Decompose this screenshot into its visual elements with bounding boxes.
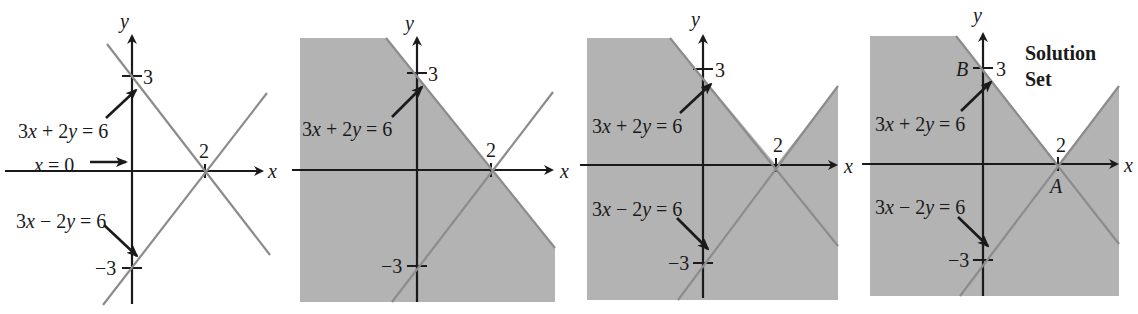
- figure: x y 3 −3 2 3x + 2y = 6 x = 0 3x − 2y = 6…: [0, 0, 1138, 314]
- label-eq2: 3x − 2y = 6: [875, 196, 965, 219]
- tick-label-y3: 3: [715, 59, 725, 81]
- label-eq1: 3x + 2y = 6: [875, 113, 965, 136]
- tick-label-y3: 3: [996, 58, 1006, 80]
- label-eq1: 3x + 2y = 6: [302, 118, 392, 141]
- y-axis-label: y: [689, 8, 700, 31]
- tick-label-x2: 2: [1056, 134, 1066, 156]
- panel-4: x y 3 −3 2 B A 3x + 2y = 6 3x − 2y = 6 S…: [862, 4, 1133, 296]
- label-eq2: 3x − 2y = 6: [16, 210, 106, 233]
- tick-label-y3: 3: [143, 66, 153, 88]
- label-eq1: 3x + 2y = 6: [18, 120, 108, 143]
- panel-3: x y 3 −3 2 3x + 2y = 6 3x − 2y = 6: [580, 8, 853, 300]
- tick-label-y-3: −3: [95, 257, 116, 279]
- x-axis-label: x: [843, 155, 853, 177]
- tick-label-y-3: −3: [381, 255, 402, 277]
- label-eq2: 3x − 2y = 6: [592, 198, 682, 221]
- tick-label-x2: 2: [486, 139, 496, 161]
- x-axis-label: x: [267, 160, 277, 182]
- tick-label-x2: 2: [773, 134, 783, 156]
- label-eq1: 3x + 2y = 6: [592, 115, 682, 138]
- shaded-region: [587, 38, 838, 300]
- point-label-b: B: [956, 58, 968, 80]
- panel-1: x y 3 −3 2 3x + 2y = 6 x = 0 3x − 2y = 6: [5, 10, 277, 305]
- solution-set-title-line2: Set: [1025, 68, 1052, 90]
- tick-label-y-3: −3: [668, 252, 689, 274]
- y-axis-label: y: [403, 12, 414, 35]
- line-3x-minus-2y: [103, 93, 267, 305]
- label-eq3: x = 0: [33, 154, 74, 176]
- panel-2: x y 3 −3 2 3x + 2y = 6: [292, 12, 569, 302]
- solution-set-title-line1: Solution: [1025, 42, 1096, 64]
- x-axis-label: x: [559, 160, 569, 182]
- tick-label-y-3: −3: [948, 249, 969, 271]
- shaded-region: [870, 36, 1119, 296]
- tick-label-x2: 2: [199, 140, 209, 162]
- y-axis-label: y: [971, 4, 982, 27]
- tick-label-y3: 3: [428, 63, 438, 85]
- x-axis-label: x: [1123, 154, 1133, 176]
- y-axis-label: y: [118, 10, 129, 33]
